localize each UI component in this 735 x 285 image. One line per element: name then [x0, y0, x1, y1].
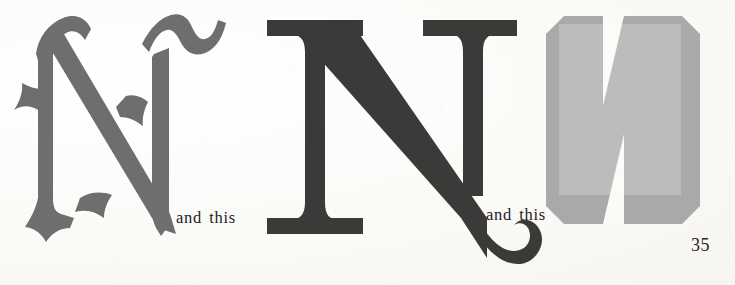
page-number: 35 — [691, 235, 710, 256]
letter-specimen-block-n — [540, 10, 715, 228]
annotation-and-this-1: and this — [176, 208, 236, 228]
block-n-glyph — [540, 10, 715, 228]
document-page: and this and this 35 — [0, 0, 735, 285]
serif-n-glyph — [255, 0, 555, 284]
annotation-and-this-2: and this — [486, 205, 546, 225]
translucent-overlay-panel — [559, 24, 681, 195]
letter-specimen-serif-n — [255, 0, 555, 284]
